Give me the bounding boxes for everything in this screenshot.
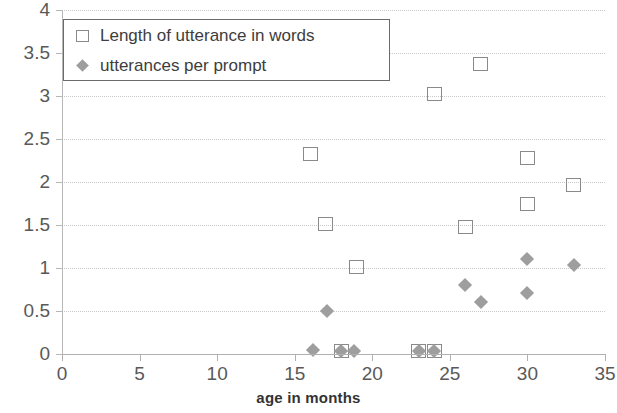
data-point: [520, 286, 534, 300]
gridline-horizontal: [62, 268, 605, 269]
y-axis-tick: [56, 96, 63, 97]
x-axis-title: age in months: [0, 389, 617, 406]
x-axis-tick-label: 15: [272, 364, 318, 383]
gridline-horizontal: [62, 10, 605, 11]
data-point: [303, 147, 318, 161]
data-point: [458, 278, 472, 292]
data-point: [458, 220, 473, 234]
x-axis-line: [62, 354, 606, 355]
y-axis-tick-label: 1: [0, 258, 50, 277]
x-axis-tick: [217, 354, 218, 361]
gridline-horizontal: [62, 96, 605, 97]
x-axis-tick: [372, 354, 373, 361]
data-point: [520, 252, 534, 266]
y-axis-tick: [56, 225, 63, 226]
x-axis-tick: [295, 354, 296, 361]
y-axis-tick: [56, 53, 63, 54]
y-axis-tick: [56, 182, 63, 183]
data-point: [349, 260, 364, 274]
legend-entry-utterances-per-prompt: utterances per prompt: [64, 50, 389, 81]
y-axis-tick: [56, 10, 63, 11]
data-point: [473, 57, 488, 71]
y-axis-tick-label: 2: [0, 172, 50, 191]
y-axis-tick-label: 3.5: [0, 43, 50, 62]
legend-entry-label: utterances per prompt: [100, 56, 266, 76]
y-axis-tick-label: 4: [0, 0, 50, 19]
data-point: [520, 197, 535, 211]
y-axis-tick: [56, 268, 63, 269]
gridline-horizontal: [62, 225, 605, 226]
chart-legend: Length of utterance in words utterances …: [63, 19, 390, 81]
open-square-icon: [64, 30, 100, 42]
data-point: [567, 258, 581, 272]
data-point: [520, 151, 535, 165]
gridline-horizontal: [62, 182, 605, 183]
filled-diamond-icon: [64, 61, 100, 70]
y-axis-tick-label: 0: [0, 344, 50, 363]
y-axis-tick-label: 0.5: [0, 301, 50, 320]
data-point: [318, 217, 333, 231]
y-axis-tick-label: 1.5: [0, 215, 50, 234]
x-axis-tick-label: 20: [349, 364, 395, 383]
data-point: [474, 295, 488, 309]
x-axis-tick-label: 5: [117, 364, 163, 383]
x-axis-tick-label: 35: [582, 364, 617, 383]
x-axis-tick-label: 30: [504, 364, 550, 383]
x-axis-tick: [527, 354, 528, 361]
y-axis-tick-label: 3: [0, 86, 50, 105]
x-axis-tick: [605, 354, 606, 361]
x-axis-tick-label: 10: [194, 364, 240, 383]
gridline-horizontal: [62, 139, 605, 140]
data-point: [320, 304, 334, 318]
y-axis-tick-label: 2.5: [0, 129, 50, 148]
legend-entry-label: Length of utterance in words: [100, 26, 315, 46]
scatter-chart: age in months Length of utterance in wor…: [0, 0, 617, 413]
y-axis-tick: [56, 139, 63, 140]
x-axis-tick-label: 0: [39, 364, 85, 383]
x-axis-tick: [140, 354, 141, 361]
data-point: [566, 178, 581, 192]
data-point: [427, 87, 442, 101]
legend-entry-length-of-utterance: Length of utterance in words: [64, 20, 389, 51]
y-axis-tick: [56, 311, 63, 312]
x-axis-tick: [450, 354, 451, 361]
x-axis-tick-label: 25: [427, 364, 473, 383]
x-axis-tick: [62, 354, 63, 361]
